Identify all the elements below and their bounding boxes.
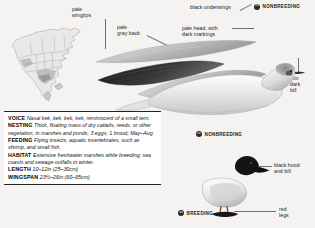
measurement-wingspan: WINGSPAN 23½–26in (60–65cm): [8, 174, 157, 181]
badge-nonbreeding-top: NONBREEDING: [254, 4, 300, 10]
field-guide-page: pale wingtips pale gray back black under…: [0, 0, 315, 228]
badge-nonbreeding-mid-label: NONBREEDING: [205, 132, 243, 137]
callout-pale-wingtips-line2: wingtips: [72, 12, 91, 18]
badge-nonbreeding-mid: NONBREEDING: [196, 131, 242, 137]
leader-red-legs: [234, 211, 276, 212]
measurement-term-wingspan: WINGSPAN: [8, 174, 38, 180]
measurement-term-length: LENGTH: [8, 166, 31, 172]
info-entry-voice: VOICE Nasal kek, kek, kek, kek, reminisc…: [8, 115, 157, 122]
badge-breeding: BREEDING: [178, 210, 213, 216]
bird-illustration-breeding: [190, 178, 270, 228]
season-dot-icon: [178, 210, 184, 216]
measurement-value-wingspan: 23½–26in (60–65cm): [40, 174, 90, 180]
callout-black-hood: black hood and bill: [274, 162, 300, 174]
callout-pale-wingtips: pale wingtips: [72, 6, 91, 18]
range-map: [6, 24, 90, 104]
info-text-voice: Nasal kek, kek, kek, kek, reminiscent of…: [27, 115, 150, 121]
callout-black-underwings-line1: black underwings: [190, 4, 231, 10]
badge-breeding-label: BREEDING: [187, 211, 214, 216]
measurement-value-length: 10–12in (25–30cm): [32, 166, 78, 172]
callout-red-legs: red legs: [279, 206, 289, 218]
info-entry-feeding: FEEDING Flying insects, aquatic inverteb…: [8, 137, 157, 151]
leader-black-underwings: [240, 4, 252, 11]
season-dot-icon: [196, 131, 202, 137]
callout-red-legs-line2: legs: [279, 212, 289, 218]
info-term-voice: VOICE: [8, 115, 25, 121]
callout-black-hood-line2: and bill: [274, 168, 300, 174]
info-term-feeding: FEEDING: [8, 137, 33, 143]
badge-nonbreeding-top-label: NONBREEDING: [263, 4, 301, 9]
measurement-length: LENGTH 10–12in (25–30cm): [8, 166, 157, 173]
info-term-habitat: HABITAT: [8, 152, 32, 158]
callout-black-underwings: black underwings: [190, 4, 231, 10]
season-dot-icon: [254, 4, 260, 10]
leader-black-hood: [258, 166, 272, 167]
info-term-nesting: NESTING: [8, 122, 33, 128]
species-info-box: VOICE Nasal kek, kek, kek, kek, reminisc…: [4, 111, 161, 185]
info-entry-habitat: HABITAT Extensive freshwater marshes whi…: [8, 152, 157, 166]
info-entry-nesting: NESTING Thick, floating mass of dry catt…: [8, 122, 157, 136]
